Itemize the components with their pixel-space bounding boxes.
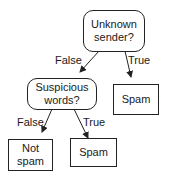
- node-spam-bottom: Spam: [70, 138, 117, 167]
- node-label: Spam: [79, 146, 108, 159]
- node-label-line2: words?: [35, 94, 88, 107]
- edge-label-true: True: [128, 54, 150, 66]
- node-label-line2: spam: [17, 155, 44, 168]
- node-label-line1: Suspicious: [35, 81, 88, 94]
- node-label: Spam: [122, 93, 151, 106]
- edge-label-false: False: [17, 116, 44, 128]
- node-label-line1: Not: [17, 142, 44, 155]
- node-not-spam: Not spam: [8, 139, 53, 171]
- node-label-line2: sender?: [91, 31, 137, 44]
- node-spam-right: Spam: [113, 84, 159, 115]
- node-unknown-sender: Unknown sender?: [83, 10, 145, 52]
- edge-label-true: True: [83, 116, 105, 128]
- node-suspicious-words: Suspicious words?: [27, 78, 97, 110]
- node-label-line1: Unknown: [91, 18, 137, 31]
- edge-label-false: False: [55, 54, 82, 66]
- edge-root-false: [80, 51, 99, 72]
